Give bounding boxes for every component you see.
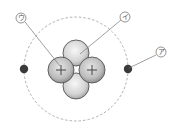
leader-line-i bbox=[80, 20, 121, 54]
electron-orbit bbox=[24, 17, 128, 121]
nucleus bbox=[48, 40, 105, 99]
label-u: ウ bbox=[16, 13, 26, 23]
label-a: ア bbox=[156, 47, 166, 57]
atom-diagram: ウ イ ア bbox=[0, 0, 172, 136]
electron-left bbox=[20, 65, 28, 73]
label-i: イ bbox=[120, 12, 130, 22]
label-u-text: ウ bbox=[18, 14, 25, 22]
label-a-text: ア bbox=[158, 48, 165, 56]
leader-line-a bbox=[129, 55, 156, 68]
electron-right bbox=[124, 65, 132, 73]
label-i-text: イ bbox=[122, 13, 129, 21]
